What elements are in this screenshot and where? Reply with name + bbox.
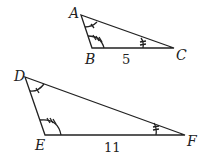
side-label-ef: 11	[104, 141, 121, 154]
vertex-label-d: D	[14, 69, 25, 83]
vertex-label-f: F	[187, 134, 197, 148]
vertex-label-e: E	[35, 138, 45, 152]
triangle-abc	[81, 15, 174, 48]
similar-triangles-diagram	[0, 0, 208, 163]
angle-e-mark	[40, 120, 61, 135]
vertex-label-a: A	[69, 6, 79, 20]
triangle-def	[25, 77, 185, 135]
angle-c-mark	[141, 38, 143, 48]
side-label-bc: 5	[122, 53, 130, 66]
vertex-label-c: C	[176, 48, 187, 62]
vertex-label-b: B	[85, 52, 95, 66]
